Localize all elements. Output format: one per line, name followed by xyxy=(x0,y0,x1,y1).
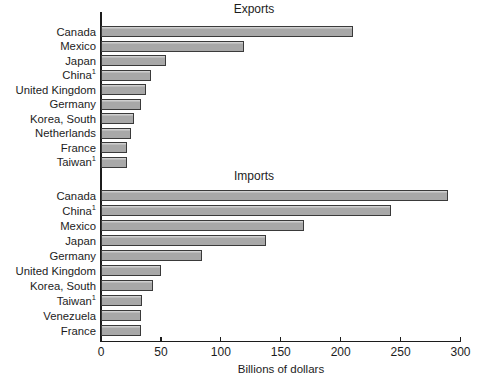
x-tick-label-300: 300 xyxy=(446,345,476,359)
x-tick-label-250: 250 xyxy=(386,345,416,359)
category-label-taiwan: Taiwan1 xyxy=(0,155,96,169)
category-label-united-kingdom: United Kingdom xyxy=(0,83,96,97)
x-tick-label-150: 150 xyxy=(266,345,296,359)
category-label-united-kingdom: United Kingdom xyxy=(0,264,96,278)
category-label-taiwan: Taiwan1 xyxy=(0,294,96,308)
bar-exports-korea-south xyxy=(101,113,134,124)
x-axis-title: Billions of dollars xyxy=(101,363,461,375)
bar-imports-korea-south xyxy=(101,280,153,291)
trade-bar-chart-figure: Billions of dollars ExportsCanadaMexicoJ… xyxy=(0,0,481,392)
bar-exports-france xyxy=(101,142,127,153)
x-tick-label-0: 0 xyxy=(86,345,116,359)
category-label-germany: Germany xyxy=(0,97,96,111)
category-label-netherlands: Netherlands xyxy=(0,126,96,140)
x-tick-300 xyxy=(460,337,461,341)
bar-exports-japan xyxy=(101,55,166,66)
category-label-japan: Japan xyxy=(0,54,96,68)
category-label-france: France xyxy=(0,141,96,155)
category-label-canada: Canada xyxy=(0,189,96,203)
bar-exports-united-kingdom xyxy=(101,84,146,95)
footnote-marker: 1 xyxy=(92,203,96,212)
bar-imports-venezuela xyxy=(101,310,141,321)
bar-exports-germany xyxy=(101,99,141,110)
x-tick-label-100: 100 xyxy=(206,345,236,359)
x-tick-label-50: 50 xyxy=(146,345,176,359)
bar-imports-france xyxy=(101,325,141,336)
category-label-mexico: Mexico xyxy=(0,219,96,233)
bar-imports-germany xyxy=(101,250,202,261)
bar-imports-taiwan xyxy=(101,295,142,306)
bar-exports-china xyxy=(101,70,151,81)
x-axis-line xyxy=(100,341,461,342)
footnote-marker: 1 xyxy=(92,154,96,163)
bar-exports-taiwan xyxy=(101,157,127,168)
x-tick-label-200: 200 xyxy=(326,345,356,359)
x-tick-50 xyxy=(160,337,161,341)
category-label-canada: Canada xyxy=(0,25,96,39)
bar-exports-canada xyxy=(101,26,353,37)
bar-exports-netherlands xyxy=(101,128,131,139)
footnote-marker: 1 xyxy=(92,293,96,302)
bar-imports-canada xyxy=(101,190,448,201)
category-label-mexico: Mexico xyxy=(0,39,96,53)
x-tick-100 xyxy=(220,337,221,341)
x-tick-200 xyxy=(340,337,341,341)
bar-imports-china xyxy=(101,205,391,216)
x-tick-150 xyxy=(280,337,281,341)
x-tick-0 xyxy=(100,337,101,341)
x-tick-250 xyxy=(400,337,401,341)
category-label-china: China1 xyxy=(0,204,96,218)
category-label-venezuela: Venezuela xyxy=(0,309,96,323)
footnote-marker: 1 xyxy=(92,67,96,76)
bar-imports-mexico xyxy=(101,220,304,231)
category-label-korea-south: Korea, South xyxy=(0,279,96,293)
bar-imports-united-kingdom xyxy=(101,265,161,276)
category-label-china: China1 xyxy=(0,68,96,82)
imports-title: Imports xyxy=(101,170,407,183)
bar-imports-japan xyxy=(101,235,266,246)
category-label-korea-south: Korea, South xyxy=(0,112,96,126)
exports-title: Exports xyxy=(101,3,407,16)
category-label-germany: Germany xyxy=(0,249,96,263)
bar-exports-mexico xyxy=(101,41,244,52)
category-label-japan: Japan xyxy=(0,234,96,248)
category-label-france: France xyxy=(0,324,96,338)
